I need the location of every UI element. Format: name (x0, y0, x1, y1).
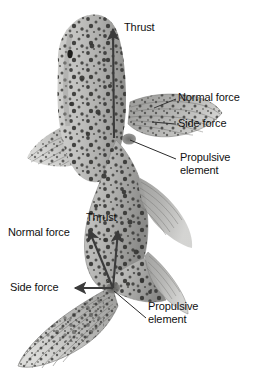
label-upper-propulsive-element-line2: element (180, 164, 218, 177)
label-lower-thrust: Thrust (86, 211, 117, 224)
label-upper-side-force: Side force (178, 117, 227, 130)
fish-force-diagram-figure: Thrust Normal force Side force Propulsiv… (0, 0, 256, 383)
fish-illustration (14, 10, 230, 374)
label-upper-normal-force: Normal force (178, 91, 240, 104)
label-lower-propulsive-element-line2: element (148, 313, 186, 326)
label-lower-propulsive-element-line1: Propulsive (148, 300, 198, 313)
label-lower-normal-force: Normal force (8, 226, 70, 239)
label-upper-thrust: Thrust (124, 21, 155, 34)
upper-thrust-arrow (113, 29, 114, 138)
caudal-fin (14, 282, 124, 374)
pectoral-propulsive-element-hub (122, 134, 136, 145)
label-upper-propulsive-element-line1: Propulsive (180, 151, 230, 164)
label-lower-side-force: Side force (10, 281, 59, 294)
fish-diagram-svg (0, 0, 256, 383)
upper-propulsive-element-leader (130, 140, 176, 159)
